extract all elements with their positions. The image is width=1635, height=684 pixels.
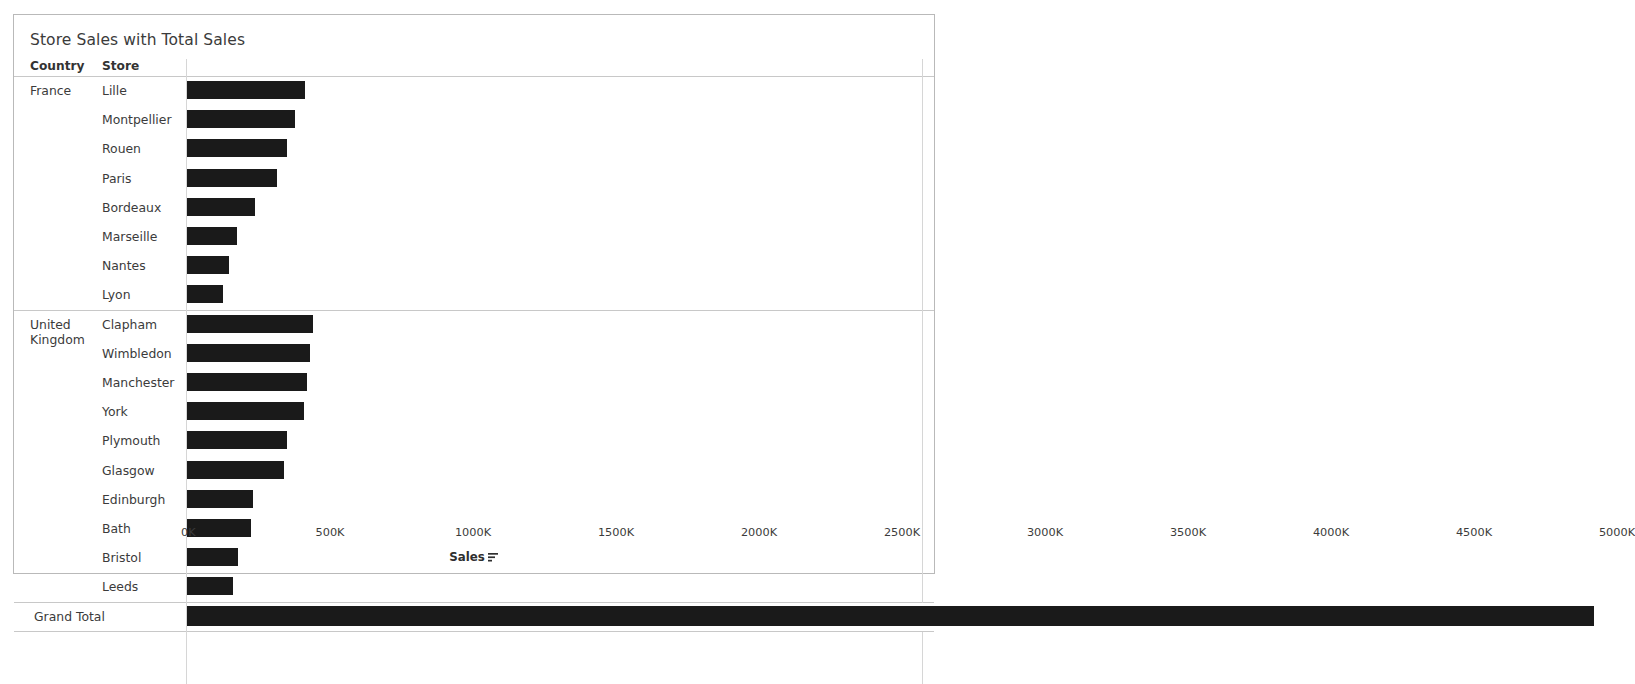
table-row[interactable]: Edinburgh: [14, 486, 934, 515]
table-row[interactable]: York: [14, 398, 934, 427]
bar-mark[interactable]: [187, 139, 287, 157]
bar-mark[interactable]: [187, 490, 253, 508]
bar-mark[interactable]: [187, 344, 310, 362]
bar-mark[interactable]: [187, 110, 295, 128]
cell-store[interactable]: Bordeaux: [102, 200, 188, 215]
cell-store[interactable]: Clapham: [102, 317, 188, 332]
bar-mark[interactable]: [187, 81, 305, 99]
bar-mark[interactable]: [187, 373, 307, 391]
table-row[interactable]: Lyon: [14, 281, 934, 310]
cell-store[interactable]: Edinburgh: [102, 492, 188, 507]
cell-store[interactable]: Nantes: [102, 258, 188, 273]
grand-total-label: Grand Total: [34, 609, 105, 624]
cell-store[interactable]: Leeds: [102, 579, 188, 594]
bar-mark[interactable]: [187, 577, 233, 595]
bar-mark[interactable]: [187, 169, 277, 187]
bar-mark[interactable]: [187, 431, 287, 449]
bar-mark[interactable]: [187, 198, 255, 216]
cell-store[interactable]: Wimbledon: [102, 346, 188, 361]
cell-store[interactable]: York: [102, 404, 188, 419]
cell-store[interactable]: Manchester: [102, 375, 188, 390]
table-row[interactable]: Glasgow: [14, 457, 934, 486]
cell-store[interactable]: Paris: [102, 171, 188, 186]
rows-layer: FranceLilleMontpellierRouenParisBordeaux…: [14, 15, 934, 573]
cell-store[interactable]: Rouen: [102, 141, 188, 156]
x-axis-title[interactable]: Sales: [14, 550, 934, 565]
table-row[interactable]: Rouen: [14, 135, 934, 164]
grand-total-row[interactable]: Grand Total: [14, 603, 934, 632]
grand-total-bar[interactable]: [187, 606, 1594, 626]
cell-store[interactable]: Montpellier: [102, 112, 188, 127]
table-row[interactable]: Marseille: [14, 223, 934, 252]
x-axis-tick-label: 500K: [316, 526, 345, 539]
x-axis-tick-label: 0K: [181, 526, 196, 539]
x-axis-tick-label: 1500K: [598, 526, 634, 539]
x-axis-tick-label: 4000K: [1313, 526, 1349, 539]
visualization-frame: Store Sales with Total Sales Country Sto…: [13, 14, 935, 574]
x-axis-title-text: Sales: [449, 550, 485, 564]
x-axis-tick-label: 4500K: [1456, 526, 1492, 539]
cell-store[interactable]: Marseille: [102, 229, 188, 244]
table-row[interactable]: United KingdomClapham: [14, 311, 934, 340]
table-row[interactable]: FranceLille: [14, 77, 934, 106]
column-separator: [186, 603, 187, 632]
x-axis-tick-label: 2500K: [884, 526, 920, 539]
row-separator: [14, 631, 934, 632]
table-row[interactable]: Paris: [14, 165, 934, 194]
cell-store[interactable]: Lyon: [102, 287, 188, 302]
x-axis-tick-label: 3000K: [1027, 526, 1063, 539]
column-separator: [186, 632, 187, 684]
x-axis-tick-label: 3500K: [1170, 526, 1206, 539]
bar-mark[interactable]: [187, 461, 284, 479]
column-separator: [922, 632, 923, 684]
bar-mark[interactable]: [187, 285, 223, 303]
cell-store[interactable]: Plymouth: [102, 433, 188, 448]
x-axis-tick-label: 5000K: [1599, 526, 1635, 539]
x-axis-tick-label: 2000K: [741, 526, 777, 539]
x-axis: 0K500K1000K1500K2000K2500K3000K3500K4000…: [14, 520, 934, 573]
table-row[interactable]: Leeds: [14, 573, 934, 602]
table-row[interactable]: Montpellier: [14, 106, 934, 135]
bar-mark[interactable]: [187, 256, 229, 274]
bar-mark[interactable]: [187, 315, 313, 333]
cell-country[interactable]: France: [30, 83, 100, 98]
table-row[interactable]: Nantes: [14, 252, 934, 281]
table-row[interactable]: Bordeaux: [14, 194, 934, 223]
table-row[interactable]: Manchester: [14, 369, 934, 398]
table-row[interactable]: Wimbledon: [14, 340, 934, 369]
table-row[interactable]: Plymouth: [14, 427, 934, 456]
cell-store[interactable]: Lille: [102, 83, 188, 98]
bar-mark[interactable]: [187, 227, 237, 245]
sort-descending-icon[interactable]: [488, 551, 499, 565]
x-axis-tick-label: 1000K: [455, 526, 491, 539]
bar-mark[interactable]: [187, 402, 304, 420]
cell-store[interactable]: Glasgow: [102, 463, 188, 478]
